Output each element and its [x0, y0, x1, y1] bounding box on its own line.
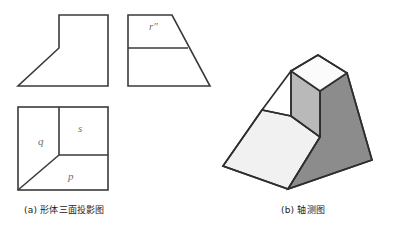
plane-label-q: q	[38, 135, 44, 147]
orthographic-projection-group	[18, 15, 210, 190]
top-view	[18, 107, 108, 190]
front-view	[18, 15, 108, 86]
front-view-outline	[18, 15, 108, 86]
side-view	[128, 15, 210, 86]
technical-drawing-figure: r″ q s p (a) 形体三面投影图 (b) 轴测图	[0, 0, 403, 228]
caption-a: (a) 形体三面投影图	[24, 203, 105, 216]
side-view-outline	[128, 15, 210, 86]
figure-canvas	[0, 0, 403, 228]
caption-b: (b) 轴测图	[281, 203, 325, 216]
plane-label-s: s	[78, 122, 82, 134]
plane-label-r: r″	[149, 20, 158, 32]
axonometric-projection-group	[223, 55, 372, 189]
plane-label-p: p	[68, 170, 74, 182]
